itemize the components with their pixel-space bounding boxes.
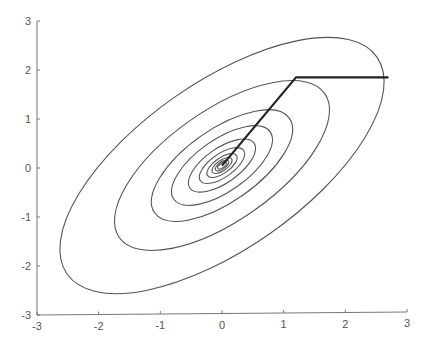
y-tick-label: 0 xyxy=(25,162,31,174)
y-tick-label: 3 xyxy=(25,15,31,27)
descent-path xyxy=(222,77,389,165)
x-tick-label: -1 xyxy=(155,319,165,331)
y-tick-label: -1 xyxy=(21,211,31,223)
contour-chart: -3-2-10123-3-2-10123 xyxy=(0,0,429,351)
y-tick-label: 1 xyxy=(25,113,31,125)
y-tick-label: -3 xyxy=(21,309,31,321)
x-tick-label: -2 xyxy=(94,320,104,332)
x-tick-label: 3 xyxy=(404,317,410,329)
x-tick-label: 1 xyxy=(281,318,287,330)
y-tick-label: 2 xyxy=(25,64,31,76)
path-line xyxy=(222,77,389,165)
x-tick-label: 2 xyxy=(342,318,348,330)
x-tick-label: -3 xyxy=(32,320,42,332)
x-tick-label: 0 xyxy=(219,319,225,331)
y-tick-label: -2 xyxy=(21,260,31,272)
contour-lines xyxy=(19,0,424,342)
